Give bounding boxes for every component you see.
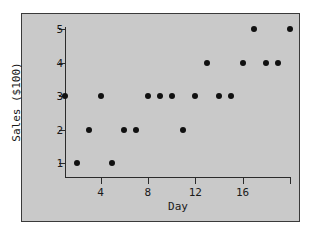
chart-figure: 481216 12345 Day Sales ($100) [0, 0, 315, 239]
plot-panel [21, 13, 300, 222]
